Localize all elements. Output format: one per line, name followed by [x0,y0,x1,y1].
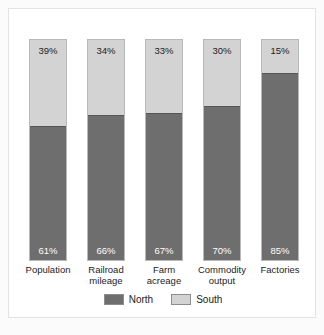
legend-item-south[interactable]: South [171,294,222,305]
stacked-bar[interactable]: 30% 70% [203,39,241,261]
bar-segment-north[interactable]: 67% [146,113,182,260]
bar-category-label: Railroad mileage [78,264,134,286]
legend-swatch-north-icon [104,294,124,305]
legend-item-north[interactable]: North [104,294,153,305]
bar-value-north: 67% [146,245,182,256]
bar-value-south: 33% [146,45,182,56]
bar-segment-north[interactable]: 85% [262,73,298,260]
bar-segment-south[interactable]: 15% [262,40,298,73]
category-line-2: mileage [78,275,134,286]
category-line-1: Railroad [78,264,134,275]
bar-group-farm-acreage[interactable]: 33% 67% Farm acreage [145,39,183,261]
bar-value-south: 34% [88,45,124,56]
bar-group-factories[interactable]: 15% 85% Factories [261,39,299,261]
bar-group-railroad-mileage[interactable]: 34% 66% Railroad mileage [87,39,125,261]
bar-group-commodity-output[interactable]: 30% 70% Commodity output [203,39,241,261]
category-line-1: Commodity [194,264,250,275]
legend-swatch-south-icon [171,294,191,305]
bar-value-south: 39% [30,45,66,56]
plot-area: 39% 61% Population 34% 66% [9,9,317,319]
chart-card: 39% 61% Population 34% 66% [8,8,316,318]
bar-category-label: Commodity output [194,264,250,286]
bar-category-label: Factories [252,264,308,275]
stacked-bar[interactable]: 34% 66% [87,39,125,261]
stacked-bar[interactable]: 15% 85% [261,39,299,261]
stacked-bar[interactable]: 39% 61% [29,39,67,261]
chart-page: 39% 61% Population 34% 66% [0,0,324,335]
bar-value-north: 85% [262,245,298,256]
category-line-1: Factories [252,264,308,275]
category-line-1: Farm [136,264,192,275]
bar-value-south: 30% [204,45,240,56]
bar-group-population[interactable]: 39% 61% Population [29,39,67,261]
bar-segment-north[interactable]: 61% [30,126,66,260]
bar-value-south: 15% [262,45,298,56]
chart-legend: North South [9,294,317,305]
legend-label-north: North [129,294,153,305]
stacked-bar[interactable]: 33% 67% [145,39,183,261]
category-line-1: Population [20,264,76,275]
bar-segment-north[interactable]: 66% [88,115,124,260]
bar-value-north: 66% [88,245,124,256]
bar-segment-south[interactable]: 39% [30,40,66,126]
bar-segment-south[interactable]: 30% [204,40,240,106]
bar-segment-north[interactable]: 70% [204,106,240,260]
legend-label-south: South [196,294,222,305]
bar-segment-south[interactable]: 34% [88,40,124,115]
bar-segment-south[interactable]: 33% [146,40,182,113]
bar-category-label: Population [20,264,76,275]
category-line-2: output [194,275,250,286]
category-line-2: acreage [136,275,192,286]
bar-value-north: 61% [30,245,66,256]
bar-category-label: Farm acreage [136,264,192,286]
bar-value-north: 70% [204,245,240,256]
